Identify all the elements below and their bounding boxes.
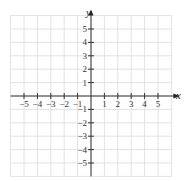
y-tick-label: 1 [83,78,88,88]
x-tick-label: −3 [46,99,56,109]
x-axis-label: x [175,89,181,101]
coordinate-plane: −5−4−3−2−11234554321−1−2−3−4−5 x y [0,0,187,181]
y-tick-label: −4 [77,145,87,155]
y-tick-label: −2 [77,118,87,128]
x-tick-label: 3 [129,99,134,109]
x-tick-label: 2 [116,99,121,109]
y-tick-label: 5 [83,24,88,34]
x-tick-label: −5 [19,99,29,109]
x-tick-label: 4 [142,99,147,109]
y-tick-label: −3 [77,131,87,141]
axes [11,10,180,177]
y-tick-label: 4 [83,37,88,47]
y-axis-label: y [85,6,91,18]
x-tick-label: 5 [156,99,161,109]
x-tick-label: 1 [102,99,107,109]
x-tick-label: −2 [59,99,69,109]
y-tick-label: 2 [83,64,88,74]
x-tick-label: −4 [33,99,43,109]
y-tick-label: −5 [77,158,87,168]
y-tick-label: 3 [83,51,88,61]
y-tick-label: −1 [77,104,87,114]
